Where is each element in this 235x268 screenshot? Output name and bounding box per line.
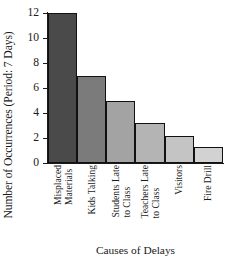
category-label-line-1: Students Late: [109, 165, 120, 218]
category-label-line-1: Visitors: [173, 165, 184, 195]
x-axis-category-cell: Students Lateto Class: [106, 165, 135, 241]
x-axis-category-cell: Teachers Lateto Class: [135, 165, 164, 241]
category-label-line-1: Misplaced: [51, 165, 62, 205]
y-axis-tick-label: 2: [17, 132, 39, 144]
category-label-line-2: Materials: [63, 165, 74, 205]
bar: [165, 136, 194, 164]
x-axis-category-cell: Kids Talking: [77, 165, 106, 241]
x-axis-category-labels: MisplacedMaterialsKids TalkingStudents L…: [48, 165, 223, 241]
category-label-line-1: Fire Drill: [202, 165, 213, 201]
y-axis-tick-label: 4: [17, 107, 39, 119]
category-label-line-1: Teachers Late: [139, 165, 150, 218]
plot-area: [48, 13, 223, 163]
bar: [135, 123, 164, 163]
y-axis-title: Number of Occurrences (Period: 7 Days): [3, 31, 15, 218]
y-axis-tick-label: 8: [17, 57, 39, 69]
y-axis-tick-label: 12: [17, 7, 39, 19]
x-axis-category-cell: Visitors: [165, 165, 194, 241]
category-label-line-2: to Class: [150, 165, 161, 218]
bar: [194, 147, 223, 163]
x-axis-title: Causes of Delays: [48, 245, 223, 256]
pareto-bar-chart: Number of Occurrences (Period: 7 Days) 0…: [0, 0, 235, 268]
y-axis-title-wrap: Number of Occurrences (Period: 7 Days): [0, 0, 18, 250]
x-axis-category-label: Teachers Lateto Class: [140, 165, 161, 218]
y-axis-tick-label: 0: [17, 157, 39, 169]
y-axis-tick-label: 10: [17, 32, 39, 44]
bar-series: [48, 13, 223, 163]
y-axis-tick-labels: 024681012: [17, 0, 39, 268]
x-axis-category-label: Visitors: [174, 165, 185, 195]
x-axis-category-label: Kids Talking: [86, 165, 97, 215]
x-axis-category-label: MisplacedMaterials: [52, 165, 73, 205]
bar: [77, 76, 106, 164]
x-axis-category-cell: Fire Drill: [194, 165, 223, 241]
x-axis-category-label: Fire Drill: [203, 165, 214, 201]
category-label-line-1: Kids Talking: [85, 165, 96, 215]
x-axis-category-cell: MisplacedMaterials: [48, 165, 77, 241]
bar: [106, 101, 135, 164]
x-axis-category-label: Students Lateto Class: [110, 165, 131, 218]
y-axis-tick-label: 6: [17, 82, 39, 94]
category-label-line-2: to Class: [121, 165, 132, 218]
bar: [48, 13, 77, 163]
